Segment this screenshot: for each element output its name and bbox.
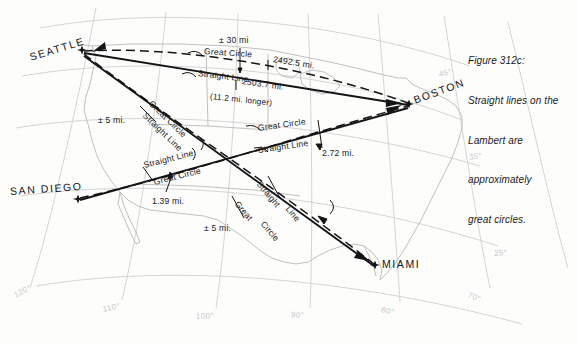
caption-line-5: great circles. — [468, 213, 559, 226]
label-sb-deviation: ± 30 mi — [219, 36, 249, 45]
caption-line-3: Lambert are — [468, 134, 559, 147]
figure-caption: Figure 312c: Straight lines on the Lambe… — [468, 28, 559, 252]
city-marker-sandiego — [73, 194, 83, 203]
label-sdb-deviation: 2.72 mi. — [322, 149, 354, 158]
longitude-label-100: 100° — [196, 312, 214, 321]
caption-line-2: Straight lines on the — [468, 94, 559, 107]
figure-lambert-great-circles: SEATTLE BOSTON SAN DIEGO MIAMI ± 30 mi G… — [0, 0, 578, 344]
route-seattle-miami-straight-line — [84, 56, 374, 266]
label-sm-deviation-upper: ± 5 mi. — [98, 116, 125, 125]
caption-line-4: approximately — [468, 173, 559, 186]
label-sm-deviation-lower: ± 5 mi. — [204, 224, 231, 233]
city-label-miami: MIAMI — [382, 259, 420, 270]
route-sandiego-boston-straight-line — [80, 108, 408, 200]
label-sd-deviation: 1.39 mi. — [152, 197, 184, 206]
route-sandiego-boston-great-circle — [80, 106, 408, 198]
longitude-label-90: 90° — [291, 311, 305, 321]
caption-line-1: Figure 312c: — [468, 54, 559, 67]
